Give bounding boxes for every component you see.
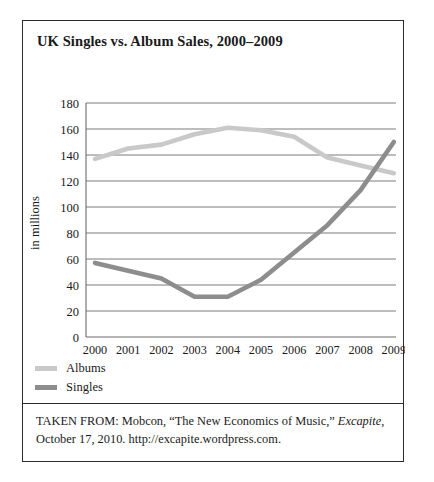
x-tick-2004: 2004 bbox=[216, 343, 240, 355]
caption-line-2: October 17, 2010. http://excapite.wordpr… bbox=[36, 432, 281, 446]
line-chart-svg: in millions 180 160 140 120 bbox=[23, 73, 405, 355]
x-tick-labels: 2000 2001 2002 2003 2004 2005 2006 2007 … bbox=[83, 343, 405, 355]
y-tick-100: 100 bbox=[60, 201, 79, 215]
figure-frame: UK Singles vs. Album Sales, 2000–2009 in… bbox=[22, 20, 404, 462]
series-line-albums bbox=[95, 128, 394, 174]
y-tick-120: 120 bbox=[60, 175, 79, 189]
y-tick-labels: 180 160 140 120 100 80 60 40 20 0 bbox=[60, 97, 79, 345]
chart-title: UK Singles vs. Album Sales, 2000–2009 bbox=[37, 33, 283, 50]
legend-item-albums: Albums bbox=[35, 359, 235, 378]
caption-source-italic: Excapite bbox=[338, 414, 381, 428]
caption-suffix: , bbox=[381, 414, 384, 428]
x-tick-2008: 2008 bbox=[348, 343, 372, 355]
series-line-singles bbox=[95, 142, 394, 297]
x-tick-2006: 2006 bbox=[282, 343, 306, 355]
legend-label-singles: Singles bbox=[66, 381, 103, 394]
y-tick-40: 40 bbox=[67, 279, 80, 293]
plot-area: in millions 180 160 140 120 bbox=[23, 73, 405, 355]
caption-divider bbox=[23, 403, 403, 404]
y-tick-80: 80 bbox=[67, 227, 80, 241]
legend-label-albums: Albums bbox=[66, 362, 106, 375]
y-tick-0: 0 bbox=[73, 331, 79, 345]
y-tick-140: 140 bbox=[60, 149, 79, 163]
x-tick-2003: 2003 bbox=[182, 343, 206, 355]
x-tick-2005: 2005 bbox=[249, 343, 273, 355]
legend-item-singles: Singles bbox=[35, 378, 235, 397]
legend-swatch-singles bbox=[35, 385, 57, 390]
y-tick-160: 160 bbox=[60, 123, 79, 137]
x-tick-2007: 2007 bbox=[315, 343, 339, 355]
x-tick-2001: 2001 bbox=[116, 343, 140, 355]
chart-legend: Albums Singles bbox=[35, 359, 235, 397]
x-tick-2002: 2002 bbox=[149, 343, 173, 355]
figure-caption: TAKEN FROM: Mobcon, “The New Economics o… bbox=[36, 413, 392, 448]
x-tick-2009: 2009 bbox=[382, 343, 405, 355]
gridlines bbox=[86, 103, 396, 311]
y-axis-label: in millions bbox=[28, 196, 42, 250]
caption-prefix: TAKEN FROM: Mobcon, “The New Economics o… bbox=[36, 414, 338, 428]
legend-swatch-albums bbox=[35, 366, 57, 371]
y-tick-20: 20 bbox=[67, 305, 80, 319]
y-tick-180: 180 bbox=[60, 97, 79, 111]
y-tick-60: 60 bbox=[67, 253, 80, 267]
x-tick-2000: 2000 bbox=[83, 343, 107, 355]
